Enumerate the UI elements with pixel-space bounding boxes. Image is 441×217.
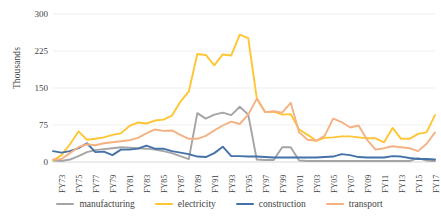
series-line-construction bbox=[53, 143, 435, 159]
legend-swatch-icon bbox=[155, 203, 173, 206]
x-axis-tick-label: FY17 bbox=[433, 175, 441, 193]
x-axis-tick-label: FY03 bbox=[314, 175, 322, 193]
y-axis-tick-label: 75 bbox=[17, 121, 48, 130]
legend-label: transport bbox=[349, 199, 383, 210]
legend-item-transport[interactable]: transport bbox=[326, 199, 383, 210]
x-axis-tick-label: FY83 bbox=[144, 175, 152, 193]
x-axis-tick-label: FY81 bbox=[127, 175, 135, 193]
legend-swatch-icon bbox=[326, 203, 344, 206]
x-axis-tick-label: FY77 bbox=[93, 175, 101, 193]
y-axis-tick-label: 0 bbox=[17, 158, 48, 167]
x-axis-tick-label: FY11 bbox=[382, 175, 390, 193]
chart-legend: manufacturingelectricityconstructiontran… bbox=[0, 196, 439, 212]
x-axis-tick-label: FY73 bbox=[59, 175, 67, 193]
x-axis-tick-label: FY93 bbox=[229, 175, 237, 193]
x-axis-tick-label: FY97 bbox=[263, 175, 271, 193]
x-axis-tick-label: FY75 bbox=[76, 175, 84, 193]
x-axis-tick-labels: FY73FY75FY77FY79FY81FY83FY85FY87FY89FY91… bbox=[53, 163, 435, 195]
y-axis-tick-labels: 300225150750 bbox=[17, 0, 48, 217]
x-axis-tick-label: FY09 bbox=[365, 175, 373, 193]
legend-label: construction bbox=[259, 199, 306, 210]
x-axis-tick-label: FY99 bbox=[280, 175, 288, 193]
legend-item-electricity[interactable]: electricity bbox=[155, 199, 216, 210]
legend-swatch-icon bbox=[236, 203, 254, 206]
legend-label: manufacturing bbox=[79, 199, 134, 210]
x-axis-tick-label: FY13 bbox=[399, 175, 407, 193]
y-axis-tick-label: 150 bbox=[17, 84, 48, 93]
plot-svg bbox=[53, 14, 435, 162]
x-axis-tick-label: FY85 bbox=[161, 175, 169, 193]
x-axis-tick-label: FY91 bbox=[212, 175, 220, 193]
x-axis-tick-label: FY79 bbox=[110, 175, 118, 193]
x-axis-tick-label: FY05 bbox=[331, 175, 339, 193]
y-axis-tick-label: 300 bbox=[17, 10, 48, 19]
series-line-transport bbox=[53, 99, 435, 160]
x-axis-tick-label: FY15 bbox=[416, 175, 424, 193]
legend-swatch-icon bbox=[56, 203, 74, 206]
legend-label: electricity bbox=[178, 199, 216, 210]
plot-area bbox=[53, 14, 435, 162]
x-axis-tick-label: FY07 bbox=[348, 175, 356, 193]
x-axis-tick-label: FY01 bbox=[297, 175, 305, 193]
y-axis-tick-label: 225 bbox=[17, 47, 48, 56]
legend-item-construction[interactable]: construction bbox=[236, 199, 306, 210]
x-axis-tick-label: FY89 bbox=[195, 175, 203, 193]
x-axis-tick-label: FY95 bbox=[246, 175, 254, 193]
x-axis-tick-label: FY87 bbox=[178, 175, 186, 193]
series-line-manufacturing bbox=[53, 107, 435, 161]
legend-item-manufacturing[interactable]: manufacturing bbox=[56, 199, 134, 210]
